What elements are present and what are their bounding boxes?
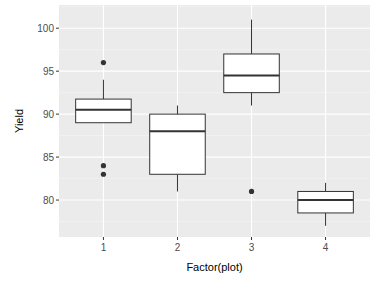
outlier-point bbox=[101, 163, 106, 168]
y-tick-label: 95 bbox=[43, 66, 55, 77]
x-axis: 1234 bbox=[101, 237, 329, 253]
y-tick-label: 100 bbox=[37, 23, 54, 34]
outlier-point bbox=[101, 60, 106, 65]
iqr-box bbox=[298, 191, 354, 212]
x-tick-label: 1 bbox=[101, 242, 107, 253]
y-tick-label: 80 bbox=[43, 195, 55, 206]
iqr-box bbox=[150, 114, 206, 174]
outlier-point bbox=[249, 189, 254, 194]
outlier-point bbox=[101, 172, 106, 177]
y-tick-label: 85 bbox=[43, 152, 55, 163]
x-tick-label: 3 bbox=[249, 242, 255, 253]
y-axis: 80859095100 bbox=[37, 23, 59, 206]
iqr-box bbox=[76, 99, 132, 123]
box-plot: 80859095100 1234 Factor(plot) Yield bbox=[0, 0, 383, 285]
x-axis-title: Factor(plot) bbox=[186, 261, 242, 273]
y-tick-label: 90 bbox=[43, 109, 55, 120]
y-axis-title: Yield bbox=[13, 109, 25, 133]
x-tick-label: 2 bbox=[175, 242, 181, 253]
iqr-box bbox=[224, 54, 280, 93]
x-tick-label: 4 bbox=[323, 242, 329, 253]
